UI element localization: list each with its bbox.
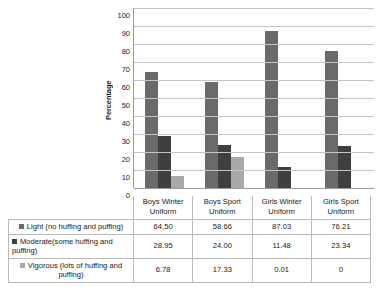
table-header-spacer [9,196,134,220]
chart-page: Percentage 1009080706050403020100 Boys W… [0,0,377,305]
bar[interactable] [265,31,278,188]
column-header-2: Girls WinterUniform [252,196,311,220]
gridline [134,134,374,135]
gridline [134,44,374,45]
gridline [134,80,374,81]
table-cell: 23.34 [311,234,370,258]
axis-baseline [134,188,374,189]
column-header-line: Uniform [314,207,368,217]
table-cell: 11.48 [252,234,311,258]
table-row: Moderate(some huffing and puffing)28.952… [9,234,371,258]
legend-entry[interactable]: Moderate(some huffing and puffing) [9,234,134,258]
bar[interactable] [171,176,184,188]
legend-label: Moderate(some huffing and puffing) [12,237,113,256]
table-cell: 87.03 [252,220,311,235]
data-table-body: Boys WinterUniformBoys SportUniformGirls… [9,196,371,282]
legend-label: Light (no huffing and puffing) [27,222,123,231]
gridline [134,152,374,153]
bar[interactable] [158,136,171,188]
table-cell: 6.78 [134,258,193,282]
column-header-line: Boys Winter [136,197,190,207]
table-cell: 28.95 [134,234,193,258]
column-header-line: Uniform [136,207,190,217]
y-axis-tick: 30 [122,138,130,146]
y-axis-tick-labels: 1009080706050403020100 [112,8,132,188]
table-cell: 17.33 [193,258,252,282]
table-row: Light (no huffing and puffing)64.5058.66… [9,220,371,235]
table-cell: 24.00 [193,234,252,258]
gridline [134,8,374,9]
legend-entry[interactable]: Vigorous (lots of huffing and puffing) [9,258,134,282]
column-header-3: Girls SportUniform [311,196,370,220]
legend-swatch-icon [20,263,25,268]
y-axis-tick: 70 [122,66,130,74]
column-header-line: Boys Sport [195,197,249,207]
legend-entry[interactable]: Light (no huffing and puffing) [9,220,134,235]
table-header-row: Boys WinterUniformBoys SportUniformGirls… [9,196,371,220]
column-header-0: Boys WinterUniform [134,196,193,220]
legend-label: Vigorous (lots of huffing and puffing) [28,261,122,280]
table-cell: 0 [311,258,370,282]
table-cell: 0.01 [252,258,311,282]
gridline [134,116,374,117]
y-axis-tick: 60 [122,84,130,92]
y-axis-tick: 90 [122,30,130,38]
bar-chart: Percentage 1009080706050403020100 [0,0,377,196]
gridline [134,98,374,99]
legend-swatch-icon [19,224,24,229]
y-axis-tick: 80 [122,48,130,56]
data-table: Boys WinterUniformBoys SportUniformGirls… [8,196,371,283]
gridline [134,62,374,63]
table-row: Vigorous (lots of huffing and puffing)6.… [9,258,371,282]
y-axis-tick: 10 [122,174,130,182]
table-cell: 76.21 [311,220,370,235]
plot-area [133,8,373,188]
table-cell: 58.66 [193,220,252,235]
y-axis-tick: 20 [122,156,130,164]
gridline [134,170,374,171]
y-axis-tick: 100 [117,12,130,20]
column-header-line: Uniform [255,207,309,217]
y-axis-tick: 50 [122,102,130,110]
gridline [134,26,374,27]
legend-swatch-icon [12,239,17,244]
table-cell: 64.50 [134,220,193,235]
y-axis-tick: 40 [122,120,130,128]
bar[interactable] [325,51,338,188]
column-header-line: Uniform [195,207,249,217]
column-header-line: Girls Sport [314,197,368,207]
column-header-line: Girls Winter [255,197,309,207]
bar[interactable] [231,157,244,188]
column-header-1: Boys SportUniform [193,196,252,220]
